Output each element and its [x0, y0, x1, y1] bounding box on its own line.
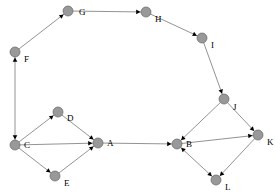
graph-node-G[interactable] — [63, 6, 73, 16]
edge-arrowhead — [13, 58, 18, 62]
graph-node-J[interactable] — [219, 94, 229, 104]
edge-arrowhead — [248, 134, 252, 139]
node-label-E: E — [64, 179, 70, 188]
graph-node-F[interactable] — [10, 47, 20, 57]
node-label-K: K — [267, 138, 274, 147]
node-label-G: G — [79, 8, 86, 17]
edge-arrowhead — [167, 142, 171, 147]
arrow-layer — [13, 10, 254, 177]
node-label-F: F — [24, 55, 29, 64]
graph-node-E[interactable] — [50, 171, 60, 181]
node-label-I: I — [211, 41, 214, 50]
graph-edge — [15, 11, 68, 52]
graph-node-H[interactable] — [141, 7, 151, 17]
node-label-D: D — [67, 114, 74, 123]
edge-arrowhead — [49, 115, 54, 119]
edge-arrowhead — [88, 141, 92, 146]
node-label-L: L — [225, 183, 231, 192]
edge-arrowhead — [59, 14, 64, 18]
edge-arrowhead — [13, 135, 18, 139]
edge-arrowhead — [136, 10, 140, 15]
graph-node-K[interactable] — [253, 130, 263, 140]
node-label-J: J — [233, 103, 237, 112]
edge-arrowhead — [89, 135, 94, 139]
node-layer — [10, 6, 263, 185]
graph-node-D[interactable] — [53, 107, 63, 117]
node-label-H: H — [155, 15, 162, 24]
node-label-A: A — [107, 139, 114, 148]
edge-arrowhead — [89, 146, 94, 150]
graph-canvas — [0, 0, 275, 195]
graph-node-L[interactable] — [211, 175, 221, 185]
graph-node-A[interactable] — [93, 138, 103, 148]
node-label-B: B — [186, 140, 192, 149]
node-label-C: C — [24, 141, 30, 150]
graph-node-C[interactable] — [10, 140, 20, 150]
edge-arrowhead — [46, 168, 51, 172]
graph-node-B[interactable] — [172, 139, 182, 149]
graph-node-I[interactable] — [197, 33, 207, 43]
